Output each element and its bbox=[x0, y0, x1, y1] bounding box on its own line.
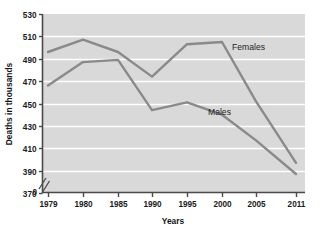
line-chart-figure: 370390410430450470490510530 197919801985… bbox=[0, 0, 323, 245]
x-axis-tick-label: 2000 bbox=[213, 200, 232, 209]
y-axis-tick-label: 390 bbox=[23, 168, 37, 177]
x-axis-tick-label: 2011 bbox=[288, 200, 306, 209]
x-axis-title: Years bbox=[162, 216, 185, 226]
x-axis-tick-label: 1985 bbox=[109, 200, 128, 209]
x-axis-tick-labels: 19791980198519901995200020052011 bbox=[39, 200, 305, 209]
series-label-females: Females bbox=[232, 42, 265, 52]
x-axis-tick-label: 1980 bbox=[74, 200, 93, 209]
series-label-males: Males bbox=[208, 107, 231, 117]
y-axis-tick-label: 490 bbox=[23, 56, 37, 65]
x-axis-tick-label: 1995 bbox=[178, 200, 197, 209]
chart-canvas: 370390410430450470490510530 197919801985… bbox=[0, 0, 323, 245]
y-axis-tick-label: 510 bbox=[23, 33, 37, 42]
y-axis-tick-label: 410 bbox=[23, 145, 37, 154]
y-axis-tick-label: 450 bbox=[23, 101, 37, 110]
x-axis-tick-label: 2005 bbox=[247, 200, 266, 209]
y-axis-title: Deaths in thousands bbox=[4, 62, 14, 145]
y-axis-tick-label: 430 bbox=[23, 123, 37, 132]
y-axis-tick-labels: 370390410430450470490510530 bbox=[23, 11, 37, 199]
y-axis-zero-label: 0 bbox=[32, 188, 37, 197]
y-axis-tick-label: 470 bbox=[23, 78, 37, 87]
x-axis-tick-label: 1979 bbox=[39, 200, 58, 209]
x-axis-tick-label: 1990 bbox=[143, 200, 162, 209]
y-axis-tick-label: 530 bbox=[23, 11, 37, 20]
